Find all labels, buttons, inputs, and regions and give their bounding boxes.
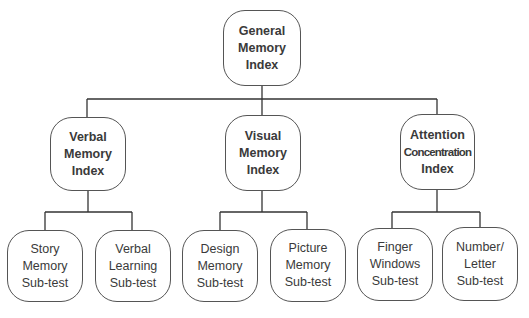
node-general-memory-index: General Memory Index	[223, 10, 301, 86]
node-label-line: Number/	[456, 239, 504, 256]
node-label-line: Sub-test	[197, 275, 244, 292]
node-visual-memory-index: Visual Memory Index	[225, 115, 301, 191]
node-label-line: Sub-test	[457, 273, 504, 290]
node-label-line: Memory	[197, 258, 242, 275]
node-number-letter-subtest: Number/ Letter Sub-test	[442, 227, 518, 301]
node-label-line: Memory	[238, 40, 286, 57]
node-design-memory-subtest: Design Memory Sub-test	[182, 230, 258, 302]
node-label-line: Memory	[64, 146, 112, 163]
node-label-line: Verbal	[115, 241, 150, 258]
node-label-line: Visual	[245, 128, 282, 145]
node-label-line: General	[239, 23, 286, 40]
node-label-line: Concentration	[404, 144, 472, 161]
node-label-line: Index	[421, 161, 454, 178]
node-label-line: Learning	[109, 258, 158, 275]
node-label-line: Index	[246, 57, 279, 74]
node-label-line: Memory	[239, 145, 287, 162]
node-label-line: Sub-test	[372, 273, 419, 290]
node-verbal-learning-subtest: Verbal Learning Sub-test	[95, 230, 171, 302]
node-label-line: Memory	[285, 257, 330, 274]
node-label-line: Windows	[370, 256, 421, 273]
node-label-line: Sub-test	[22, 275, 69, 292]
node-label-line: Picture	[289, 240, 328, 257]
node-story-memory-subtest: Story Memory Sub-test	[7, 230, 83, 302]
node-label-line: Letter	[464, 256, 496, 273]
node-label-line: Finger	[377, 239, 412, 256]
node-verbal-memory-index: Verbal Memory Index	[50, 117, 126, 191]
node-label-line: Attention	[410, 127, 465, 144]
node-finger-windows-subtest: Finger Windows Sub-test	[357, 228, 433, 301]
node-label-line: Index	[247, 162, 280, 179]
node-label-line: Sub-test	[110, 275, 157, 292]
node-label-line: Index	[72, 163, 105, 180]
node-label-line: Design	[201, 241, 240, 258]
node-picture-memory-subtest: Picture Memory Sub-test	[270, 229, 346, 302]
node-label-line: Sub-test	[285, 274, 332, 291]
node-label-line: Story	[30, 241, 59, 258]
node-attention-concentration-index: Attention Concentration Index	[400, 114, 475, 190]
node-label-line: Memory	[22, 258, 67, 275]
node-label-line: Verbal	[69, 129, 107, 146]
